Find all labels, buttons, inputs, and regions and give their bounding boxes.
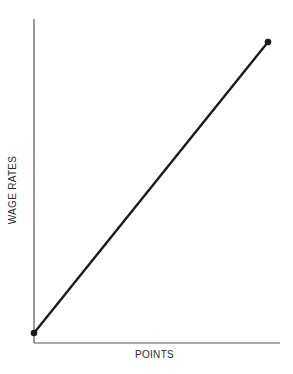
y-axis-label: WAGE RATES — [7, 156, 18, 225]
x-axis-label: POINTS — [0, 349, 293, 360]
plot-area — [31, 39, 272, 337]
start-point-marker — [31, 330, 38, 337]
chart-canvas — [0, 0, 293, 374]
end-point-marker — [265, 39, 272, 46]
wage-line — [34, 42, 268, 333]
